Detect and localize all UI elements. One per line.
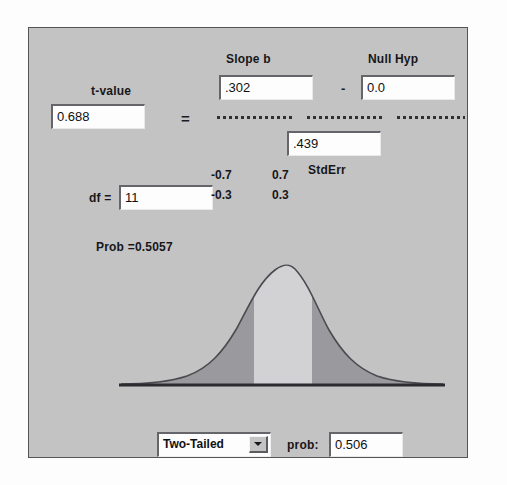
calculator-panel: Slope b Null Hyp t-value .302 - 0.0 0.68… bbox=[28, 27, 468, 458]
equals-sign: = bbox=[181, 110, 190, 127]
stderr-input[interactable]: .439 bbox=[287, 131, 381, 156]
tick-upper-left: -0.7 bbox=[211, 168, 232, 182]
t-distribution-plot bbox=[117, 256, 447, 392]
null-hyp-label: Null Hyp bbox=[368, 52, 418, 66]
prob-output[interactable]: 0.506 bbox=[329, 432, 403, 457]
slope-input[interactable]: .302 bbox=[219, 75, 313, 100]
applet-window: Slope b Null Hyp t-value .302 - 0.0 0.68… bbox=[0, 0, 507, 485]
df-label: df = bbox=[89, 191, 111, 205]
tail-selection-value: Two-Tailed bbox=[163, 437, 224, 451]
right-tail-region bbox=[312, 256, 447, 385]
tick-lower-left: -0.3 bbox=[211, 188, 232, 202]
chevron-down-icon bbox=[254, 442, 262, 446]
left-tail-region bbox=[117, 256, 254, 385]
tick-lower-right: 0.3 bbox=[272, 188, 289, 202]
tvalue-label: t-value bbox=[91, 84, 131, 98]
slope-label: Slope b bbox=[226, 52, 271, 66]
stderr-label: StdErr bbox=[308, 163, 346, 177]
fraction-bar-right bbox=[397, 116, 465, 119]
center-region bbox=[254, 256, 312, 385]
distribution-svg bbox=[117, 256, 447, 392]
minus-operator: - bbox=[341, 81, 345, 96]
prob-label: prob: bbox=[287, 438, 319, 452]
null-hyp-input[interactable]: 0.0 bbox=[361, 75, 455, 100]
prob-annotation: Prob =0.5057 bbox=[96, 240, 173, 254]
fraction-bar-middle bbox=[307, 116, 385, 119]
tail-selection-dropdown[interactable]: Two-Tailed bbox=[157, 432, 271, 457]
fraction-bar-left bbox=[217, 116, 295, 119]
tick-upper-right: 0.7 bbox=[272, 168, 289, 182]
dropdown-button[interactable] bbox=[249, 436, 268, 453]
tvalue-output[interactable]: 0.688 bbox=[51, 104, 145, 129]
df-input[interactable]: 11 bbox=[119, 185, 213, 210]
